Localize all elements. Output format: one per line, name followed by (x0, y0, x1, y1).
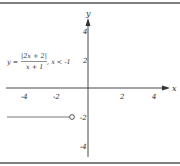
function-annotation: y = |2x + 2| x + 1 , x < -1 (6, 52, 71, 71)
y-tick-4: 4 (82, 28, 87, 36)
y-tick-2: 2 (82, 57, 88, 65)
y-tick-minus4: -4 (80, 143, 87, 151)
annotation-condition: , x < -1 (47, 58, 71, 66)
y-tick-minus2: -2 (80, 114, 87, 122)
y-axis-label: y (85, 9, 91, 18)
x-tick-4: 4 (151, 93, 156, 101)
annotation-lhs: y = (6, 58, 18, 66)
x-tick-2: 2 (119, 93, 125, 101)
annotation-denominator: x + 1 (26, 63, 43, 71)
annotation-numerator: |2x + 2| (21, 52, 47, 60)
x-tick-minus4: -4 (21, 93, 28, 101)
x-tick-minus2: -2 (53, 93, 60, 101)
x-axis-arrow-icon (162, 86, 170, 91)
function-graph: x y -4 -2 2 4 4 2 -2 -4 y = |2x + 2| x +… (0, 0, 180, 166)
y-axis-arrow-icon (86, 18, 91, 26)
open-endpoint-circle (70, 115, 75, 120)
x-axis-label: x (172, 84, 177, 93)
